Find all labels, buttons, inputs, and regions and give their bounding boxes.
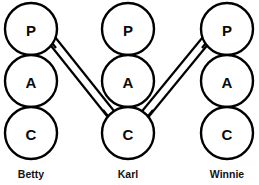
ego-label-winnie-child: C [222,126,233,143]
ego-state-betty-adult[interactable]: A [5,55,57,107]
ego-state-diagram: P A C Betty P A C [0,0,259,185]
person-column-winnie: P A C Winnie [201,3,253,180]
ego-state-winnie-parent[interactable]: P [201,3,253,55]
ego-label-karl-child: C [123,126,134,143]
ego-label-karl-parent: P [123,22,133,39]
ego-label-karl-adult: A [123,74,134,91]
ego-label-betty-adult: A [26,74,37,91]
ego-state-karl-adult[interactable]: A [102,55,154,107]
person-column-betty: P A C Betty [5,3,57,180]
ego-label-winnie-parent: P [222,22,232,39]
ego-state-winnie-child[interactable]: C [201,107,253,159]
ego-label-betty-parent: P [26,22,36,39]
person-label-karl: Karl [118,168,139,180]
ego-label-winnie-adult: A [222,74,233,91]
person-label-betty: Betty [18,168,44,180]
ego-state-winnie-adult[interactable]: A [201,55,253,107]
ego-state-betty-parent[interactable]: P [5,3,57,55]
diagram-canvas: P A C Betty P A C [0,0,259,185]
ego-state-karl-parent[interactable]: P [102,3,154,55]
person-label-winnie: Winnie [210,168,244,180]
ego-state-betty-child[interactable]: C [5,107,57,159]
ego-label-betty-child: C [26,126,37,143]
person-column-karl: P A C Karl [102,3,154,180]
ego-state-karl-child[interactable]: C [102,107,154,159]
